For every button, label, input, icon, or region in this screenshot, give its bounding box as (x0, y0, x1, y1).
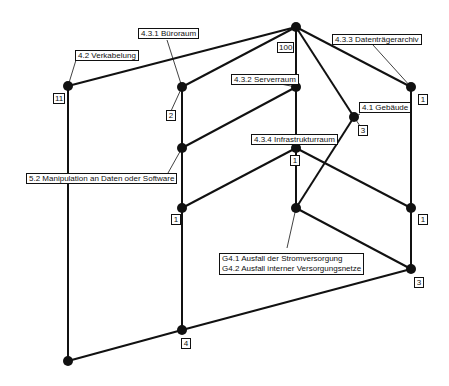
leader-line (287, 208, 296, 248)
count-infrastrukturraum: 1 (290, 155, 300, 166)
count-top: 100 (277, 42, 294, 53)
count-left-mid: 1 (171, 214, 181, 225)
count-verkabelung: 11 (53, 93, 65, 104)
node-center-low (291, 203, 301, 213)
node-bottom-center (177, 325, 187, 335)
label-ausfall-line1: G4.1 Ausfall der Stromversorgung (222, 254, 361, 264)
label-datentraegerarchiv: 4.3.3 Datenträgerarchiv (332, 34, 422, 45)
node-right-mid (406, 203, 416, 213)
label-manipulation: 5.2 Manipulation an Daten oder Software (26, 173, 177, 184)
count-gebaeude: 3 (358, 125, 368, 136)
node-left-mid (177, 203, 187, 213)
node-bottom (63, 356, 73, 366)
count-bottom-center: 4 (181, 338, 191, 349)
label-infrastrukturraum: 4.3.4 Infrastrukturraum (251, 134, 338, 145)
label-bueroraum: 4.3.1 Büroraum (138, 28, 199, 39)
node-verkabelung (63, 81, 73, 91)
node-bueroraum (177, 82, 187, 92)
label-gebaeude: 4.1 Gebäude (359, 102, 411, 113)
node-right-low (406, 264, 416, 274)
label-serverraum: 4.3.2 Serverraum (231, 74, 299, 85)
edge (182, 148, 296, 208)
edge (296, 148, 411, 208)
leader-line (373, 45, 411, 87)
label-ausfall-line2: G4.2 Ausfall interner Versorgungsnetze (222, 264, 361, 274)
count-right-low: 3 (414, 277, 424, 288)
lattice-diagram (0, 0, 449, 386)
count-datentraegerarchiv: 1 (418, 94, 428, 105)
count-bueroraum: 2 (166, 110, 176, 121)
label-ausfall: G4.1 Ausfall der Stromversorgung G4.2 Au… (219, 253, 364, 275)
node-gebaeude (349, 112, 359, 122)
count-right-mid: 1 (418, 214, 428, 225)
node-manipulation (177, 143, 187, 153)
node-top (291, 22, 301, 32)
leader-line (167, 40, 182, 87)
label-verkabelung: 4.2 Verkabelung (75, 50, 139, 61)
edge (182, 269, 411, 330)
edge (68, 330, 182, 361)
node-datentraegerarchiv (406, 82, 416, 92)
